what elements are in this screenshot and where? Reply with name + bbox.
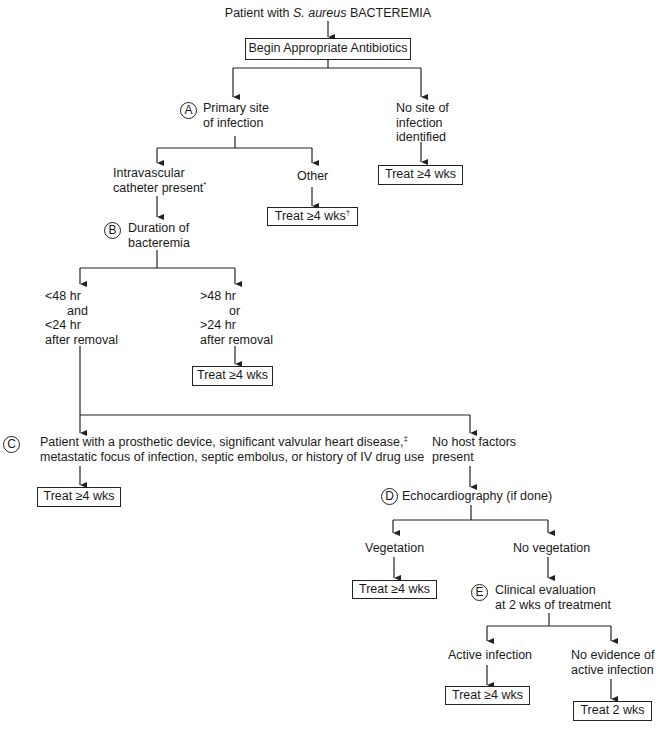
active-infection-node: Active infection — [448, 648, 532, 663]
short-line1: <48 hr — [45, 289, 118, 304]
start-node: Patient with S. aureus BACTEREMIA — [0, 6, 656, 21]
clinical-eval-node: Clinical evaluation at 2 wks of treatmen… — [495, 583, 611, 612]
short-line2: and — [45, 304, 118, 319]
connector-lines — [0, 0, 656, 732]
organism-name: S. aureus — [293, 6, 347, 20]
marker-e-icon: E — [471, 584, 488, 601]
no-site-node: No site of infection identified — [396, 101, 449, 145]
other-node: Other — [297, 169, 328, 184]
short-duration-node: <48 hr and <24 hr after removal — [45, 289, 118, 347]
no-active-line2: active infection — [571, 663, 654, 678]
short-line4: after removal — [45, 333, 118, 348]
short-line3: <24 hr — [45, 318, 118, 333]
footnote-double-dagger: ‡ — [403, 434, 407, 443]
no-vegetation-node: No vegetation — [513, 541, 590, 556]
primary-site-line2: of infection — [203, 116, 269, 131]
active-treat-box: Treat ≥4 wks — [445, 686, 530, 705]
begin-antibiotics-box: Begin Appropriate Antibiotics — [245, 38, 411, 60]
marker-a-icon: A — [180, 102, 197, 119]
clinical-eval-line2: at 2 wks of treatment — [495, 598, 611, 613]
duration-line1: Duration of — [128, 221, 190, 236]
marker-d-icon: D — [381, 488, 398, 505]
other-treat-label: Treat ≥4 wks — [275, 209, 346, 223]
long-line2: or — [200, 304, 273, 319]
no-host-node: No host factors present — [432, 435, 516, 464]
no-host-line1: No host factors — [432, 435, 516, 450]
no-active-node: No evidence of active infection — [571, 648, 654, 677]
start-suffix: BACTEREMIA — [346, 6, 431, 20]
vegetation-treat-box: Treat ≥4 wks — [352, 580, 437, 599]
duration-line2: bacteremia — [128, 236, 190, 251]
host-factors-node: Patient with a prosthetic device, signif… — [40, 435, 424, 464]
no-site-line2: infection — [396, 116, 449, 131]
no-active-treat-box: Treat 2 wks — [573, 701, 652, 721]
long-line3: >24 hr — [200, 318, 273, 333]
start-prefix: Patient with — [225, 6, 293, 20]
marker-c-icon: C — [3, 436, 20, 453]
footnote-asterisk: * — [203, 179, 206, 188]
host-factors-line1: Patient with a prosthetic device, signif… — [40, 435, 403, 449]
clinical-eval-line1: Clinical evaluation — [495, 583, 611, 598]
catheter-node: Intravascular catheter present* — [113, 166, 206, 195]
echo-node: Echocardiography (if done) — [402, 489, 552, 504]
marker-b-icon: B — [104, 222, 121, 239]
primary-site-node: Primary site of infection — [203, 101, 269, 130]
no-site-line1: No site of — [396, 101, 449, 116]
no-site-treat-box: Treat ≥4 wks — [378, 165, 463, 185]
catheter-line2: catheter present — [113, 181, 203, 195]
long-line1: >48 hr — [200, 289, 273, 304]
host-factors-treat-box: Treat ≥4 wks — [37, 487, 121, 507]
vegetation-node: Vegetation — [365, 541, 424, 556]
no-host-line2: present — [432, 450, 516, 465]
primary-site-line1: Primary site — [203, 101, 269, 116]
host-factors-line2: metastatic focus of infection, septic em… — [40, 450, 424, 465]
no-site-line3: identified — [396, 130, 449, 145]
long-duration-treat-box: Treat ≥4 wks — [192, 366, 273, 386]
catheter-line1: Intravascular — [113, 166, 206, 181]
other-treat-box: Treat ≥4 wks† — [267, 207, 358, 226]
duration-node: Duration of bacteremia — [128, 221, 190, 250]
long-line4: after removal — [200, 333, 273, 348]
no-active-line1: No evidence of — [571, 648, 654, 663]
long-duration-node: >48 hr or >24 hr after removal — [200, 289, 273, 347]
footnote-dagger: † — [346, 208, 350, 217]
